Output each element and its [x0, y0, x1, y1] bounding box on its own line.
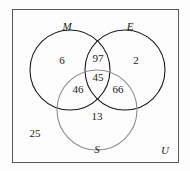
- region-count-outside-all: 25: [30, 128, 41, 139]
- region-count-m-e-and-s: 45: [93, 72, 104, 83]
- region-count-e-and-s: 66: [113, 84, 124, 95]
- set-label-s: S: [94, 144, 100, 155]
- region-count-e-only: 2: [133, 55, 139, 66]
- universal-set-frame: [13, 10, 179, 163]
- region-count-m-and-s: 46: [73, 84, 84, 95]
- region-count-m-only: 6: [59, 55, 65, 66]
- region-count-s-only: 13: [92, 111, 103, 122]
- set-label-m: M: [62, 21, 71, 32]
- set-label-e: E: [127, 21, 134, 32]
- universal-set-label: U: [161, 145, 169, 156]
- venn-diagram: M E S U 6 97 2 46 45 66 13 25: [0, 0, 190, 171]
- region-count-m-and-e: 97: [93, 53, 104, 64]
